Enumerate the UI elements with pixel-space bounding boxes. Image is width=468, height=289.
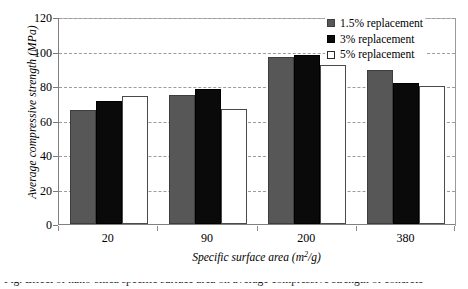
bar: [320, 65, 346, 224]
y-tick-label: 20: [18, 185, 52, 197]
x-axis-tick-labels: 2090200380: [58, 231, 455, 246]
bar-chart-figure: Average compressive strength (MPa) 12010…: [0, 0, 468, 289]
x-tick-label: 20: [58, 231, 157, 246]
legend-swatch: [327, 35, 335, 43]
y-tick-label: 0: [18, 219, 52, 231]
y-tick-mark: [53, 156, 58, 157]
y-tick-label: 100: [18, 47, 52, 59]
bar: [70, 110, 96, 224]
legend: 1.5% replacement3% replacement5% replace…: [325, 16, 425, 63]
bar-group: [158, 18, 257, 224]
legend-swatch: [327, 19, 335, 27]
y-axis-tick-labels: 120100806040200: [18, 18, 52, 225]
x-tick-label: 200: [257, 231, 356, 246]
legend-label: 3% replacement: [340, 33, 414, 46]
y-tick-label: 80: [18, 81, 52, 93]
legend-label: 1.5% replacement: [340, 17, 423, 30]
bar: [122, 96, 148, 225]
bar: [96, 101, 122, 224]
y-tick-mark: [53, 53, 58, 54]
legend-label: 5% replacement: [340, 48, 414, 61]
y-tick-label: 60: [18, 116, 52, 128]
x-tick-label: 90: [157, 231, 256, 246]
bar: [169, 95, 195, 224]
x-axis-title-tail: /g): [308, 251, 321, 263]
x-axis-title-main: Specific surface area (m: [192, 251, 304, 263]
plot-frame-right: [455, 18, 456, 226]
caption-sliver: Fig. Effect of nano-silica specific surf…: [0, 282, 468, 289]
x-tick-label: 380: [356, 231, 455, 246]
legend-item: 1.5% replacement: [327, 17, 423, 30]
bar: [195, 89, 221, 224]
x-axis-title: Specific surface area (m2/g): [58, 250, 455, 263]
y-tick-mark: [53, 122, 58, 123]
legend-swatch: [327, 51, 335, 59]
bar: [419, 86, 445, 224]
bar: [393, 83, 419, 224]
y-tick-mark: [53, 87, 58, 88]
bar-group: [59, 18, 158, 224]
y-tick-mark: [53, 191, 58, 192]
legend-item: 5% replacement: [327, 48, 423, 61]
y-tick-mark: [53, 225, 58, 226]
bar: [294, 55, 320, 224]
bar: [268, 57, 294, 224]
y-tick-label: 40: [18, 150, 52, 162]
y-tick-mark: [53, 18, 58, 19]
legend-item: 3% replacement: [327, 33, 423, 46]
bar: [221, 109, 247, 224]
bar: [367, 70, 393, 224]
caption-sliver-text: Fig. Effect of nano-silica specific surf…: [4, 282, 423, 285]
y-tick-label: 120: [18, 12, 52, 24]
